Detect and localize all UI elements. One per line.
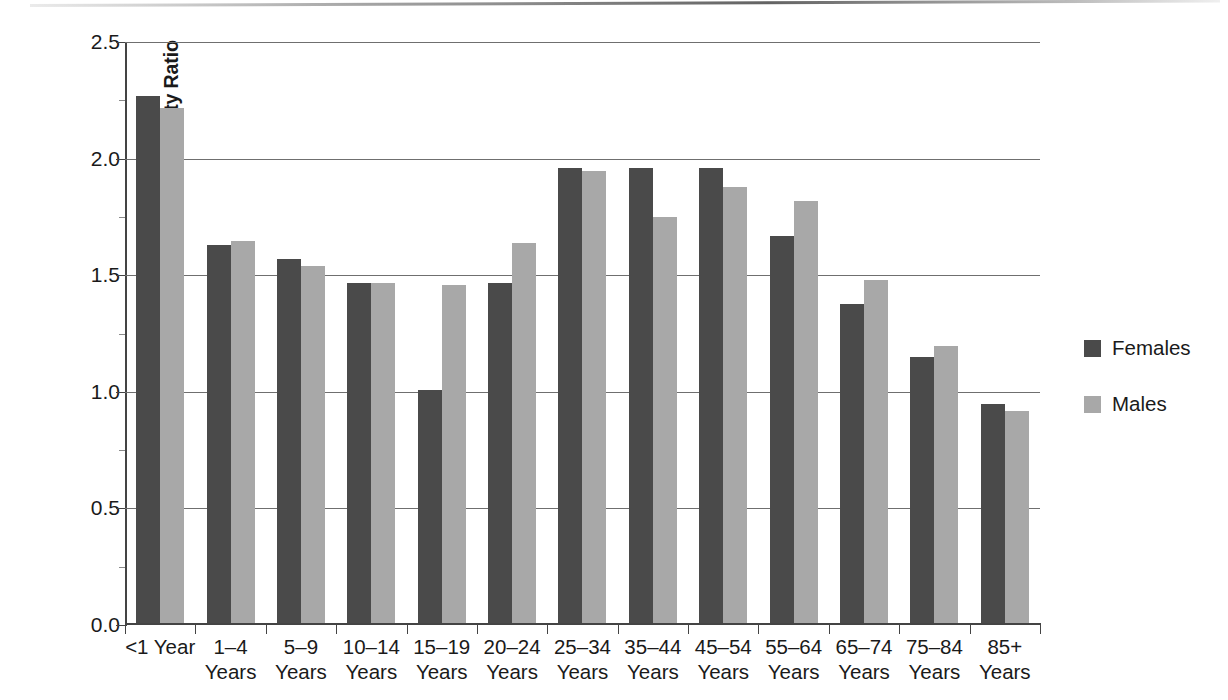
bar-females xyxy=(840,304,864,623)
bar-males xyxy=(723,187,747,623)
bar-males xyxy=(442,285,466,623)
bar-group xyxy=(758,41,828,623)
legend-entry: Females xyxy=(1084,338,1224,358)
x-axis-tickmark xyxy=(688,625,689,634)
x-axis-tickmark xyxy=(547,625,548,634)
legend-color-swatch xyxy=(1084,396,1101,413)
x-axis-tickmark xyxy=(758,625,759,634)
bar-males xyxy=(231,241,255,623)
y-axis-tick-label: 0.5 xyxy=(68,497,120,518)
bar-group xyxy=(547,41,617,623)
x-axis-tickmark xyxy=(336,625,337,634)
legend-label: Males xyxy=(1112,394,1167,414)
bar-females xyxy=(488,283,512,623)
bar-females xyxy=(910,357,934,623)
x-axis-category-label-line: 85+ xyxy=(957,634,1053,659)
bar-chart-figure: Black:White Mortality Ratio 2.52.01.51.0… xyxy=(0,0,1228,700)
bar-group xyxy=(407,41,477,623)
bar-females xyxy=(770,236,794,623)
bar-females xyxy=(981,404,1005,623)
bar-females xyxy=(207,245,231,623)
legend-entry: Males xyxy=(1084,394,1224,414)
y-axis-tick-label: 0.0 xyxy=(68,614,120,635)
chart-legend: FemalesMales xyxy=(1084,338,1224,450)
bar-group xyxy=(829,41,899,623)
x-axis-tickmark xyxy=(266,625,267,634)
x-axis-line xyxy=(125,623,1041,625)
bar-group xyxy=(899,41,969,623)
bar-females xyxy=(629,168,653,623)
x-axis-tickmark xyxy=(970,625,971,634)
bar-males xyxy=(512,243,536,623)
y-axis-tick-labels: 2.52.01.51.00.50.0 xyxy=(60,0,120,700)
x-axis-tickmark xyxy=(195,625,196,634)
bar-group xyxy=(125,41,195,623)
x-axis-tickmark xyxy=(125,625,126,634)
bar-group xyxy=(618,41,688,623)
x-axis-tickmark xyxy=(829,625,830,634)
y-axis-tick-label: 2.0 xyxy=(68,148,120,169)
bar-group xyxy=(688,41,758,623)
bar-females xyxy=(136,96,160,623)
bar-males xyxy=(301,266,325,623)
y-axis-tick-label: 1.5 xyxy=(68,264,120,285)
bar-males xyxy=(934,346,958,624)
bar-males xyxy=(1005,411,1029,623)
x-axis-tickmark xyxy=(477,625,478,634)
bar-females xyxy=(347,283,371,623)
bar-group xyxy=(195,41,265,623)
bar-males xyxy=(160,108,184,623)
bar-males xyxy=(864,280,888,623)
bar-group xyxy=(336,41,406,623)
x-axis-category-labels: <1 Year1–4Years5–9Years10–14Years15–19Ye… xyxy=(125,634,1040,698)
bar-group xyxy=(970,41,1040,623)
y-axis-tick-label: 2.5 xyxy=(68,31,120,52)
x-axis-category-label-line: Years xyxy=(957,659,1053,684)
bar-males xyxy=(371,283,395,623)
x-axis-tickmark xyxy=(1040,625,1041,634)
x-axis-tickmark xyxy=(618,625,619,634)
plot-area xyxy=(125,42,1040,625)
bar-females xyxy=(418,390,442,623)
bar-group xyxy=(477,41,547,623)
legend-color-swatch xyxy=(1084,340,1101,357)
legend-label: Females xyxy=(1112,338,1191,358)
bar-males xyxy=(582,171,606,623)
bar-males xyxy=(653,217,677,623)
y-axis-tick-label: 1.0 xyxy=(68,381,120,402)
bar-females xyxy=(699,168,723,623)
x-axis-tickmark xyxy=(899,625,900,634)
bar-males xyxy=(794,201,818,623)
bar-group xyxy=(266,41,336,623)
x-axis-category-label: 85+Years xyxy=(957,634,1053,684)
bar-females xyxy=(277,259,301,623)
x-axis-tickmark xyxy=(407,625,408,634)
bar-females xyxy=(558,168,582,623)
